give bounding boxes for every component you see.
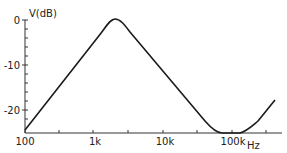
- x-tick-1k: 1k: [89, 136, 101, 147]
- x-tick-100k: 100k: [221, 136, 246, 147]
- chart: V(dB) 0 -10 -20 100 1k 10k 100k Hz: [0, 0, 287, 153]
- y-axis-label: V(dB): [29, 8, 57, 19]
- response-curve: [25, 19, 275, 133]
- y-tick-minus20: -20: [4, 105, 20, 116]
- y-tick-0: 0: [14, 15, 20, 26]
- x-tick-100: 100: [15, 136, 34, 147]
- x-unit-label: Hz: [247, 140, 260, 151]
- y-tick-minus10: -10: [4, 60, 20, 71]
- x-tick-10k: 10k: [156, 136, 175, 147]
